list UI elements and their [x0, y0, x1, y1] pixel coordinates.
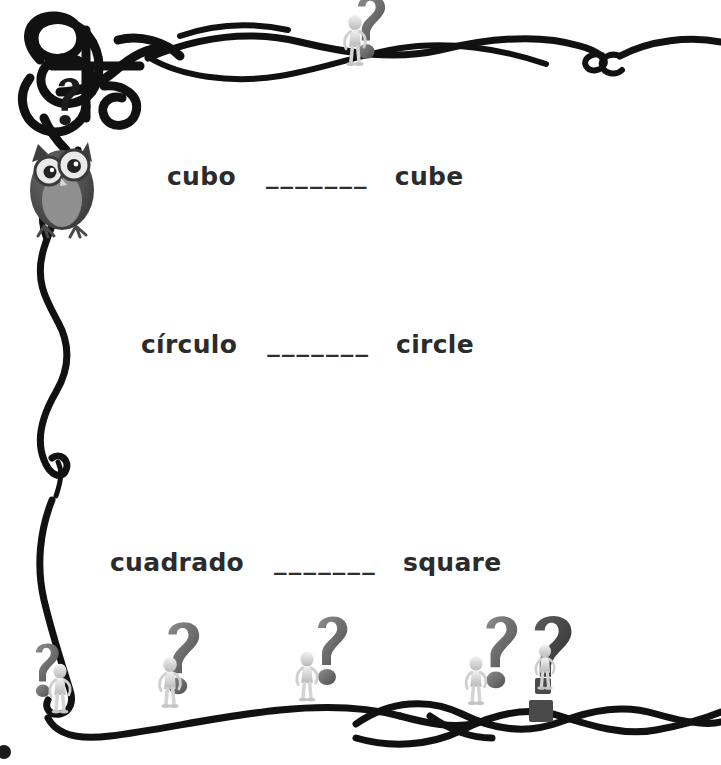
answer-blank[interactable]: _______ [274, 546, 377, 575]
spanish-term: cubo [167, 162, 236, 191]
english-term: circle [396, 330, 474, 359]
english-term: cube [395, 162, 464, 191]
vocab-row-circle: círculo _______ circle [141, 330, 474, 359]
answer-blank[interactable]: _______ [267, 328, 370, 357]
vocab-row-square: cuadrado _______ square [110, 548, 502, 577]
vocab-row-cube: cubo _______ cube [167, 162, 463, 191]
worksheet-page: cubo _______ cube círculo _______ circle… [0, 0, 721, 765]
spanish-term: cuadrado [110, 548, 244, 577]
spanish-term: círculo [141, 330, 237, 359]
vocabulary-rows: cubo _______ cube círculo _______ circle… [0, 0, 721, 765]
english-term: square [403, 548, 502, 577]
answer-blank[interactable]: _______ [266, 160, 369, 189]
